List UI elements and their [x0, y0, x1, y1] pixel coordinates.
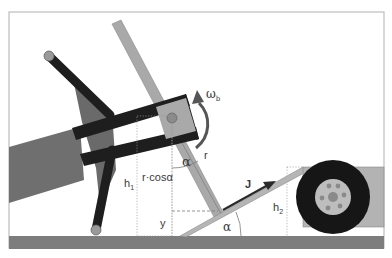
upper-pivot [44, 51, 54, 61]
j-label: J [245, 178, 251, 190]
alpha-bottom-label: α [223, 220, 231, 234]
lower-pivot [91, 225, 101, 235]
r-label: r [204, 149, 208, 161]
rcos-label: r·cosα [142, 171, 173, 183]
ground [9, 236, 384, 249]
y-label: y [160, 217, 166, 229]
hub-center [328, 192, 338, 202]
diagram-canvas: ωb α r r·cosα h1 y J h2 α [0, 0, 392, 258]
alpha-top-label: α [182, 154, 191, 169]
